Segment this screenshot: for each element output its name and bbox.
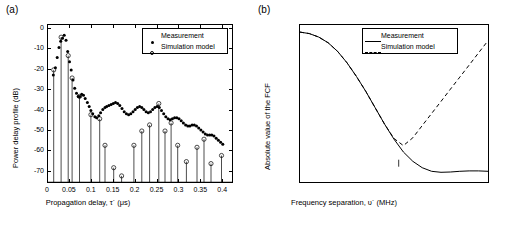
measurement-marker: [56, 56, 59, 59]
panel-b-label: (b): [258, 4, 270, 15]
measurement-marker: [142, 108, 145, 111]
panel-b-x-axis-title: Frequency separation, υ´ (MHz): [291, 198, 397, 207]
panel-a-legend-label-0: Measurement: [161, 30, 204, 41]
y-tick: [47, 69, 51, 70]
y-tick-label: -60: [21, 146, 44, 154]
measurement-marker: [99, 111, 102, 114]
x-tick: [157, 179, 158, 183]
y-tick-right: [229, 150, 233, 151]
measurement-marker: [88, 105, 91, 108]
measurement-marker: [70, 68, 73, 71]
x-tick-label: 0: [45, 186, 49, 194]
y-tick-right: [229, 89, 233, 90]
measurement-marker: [72, 79, 75, 82]
measurement-marker: [202, 131, 205, 134]
measurement-marker: [219, 141, 222, 144]
panel-b-y-axis-title: Absolute value of the FCF: [263, 83, 272, 170]
measurement-marker: [160, 109, 163, 112]
x-tick-label: 0.15: [106, 186, 120, 194]
x-tick-label: 0.3: [174, 186, 184, 194]
x-tick-label: 0.1: [86, 186, 96, 194]
x-tick: [200, 179, 201, 183]
y-tick-right: [229, 130, 233, 131]
x-tick-top: [91, 24, 92, 28]
measurement-marker: [54, 66, 57, 69]
y-tick-right: [229, 69, 233, 70]
measurement-marker: [158, 106, 161, 109]
y-tick-label: -10: [21, 44, 44, 52]
panel-b-legend-label-1: Simulation model: [381, 41, 435, 52]
panel-a-label: (a): [6, 4, 18, 15]
x-tick: [91, 179, 92, 183]
measurement-marker: [91, 112, 94, 115]
panel-a-y-axis-title: Power delay profile (dB): [11, 88, 20, 168]
measurement-marker: [149, 110, 152, 113]
y-tick-right: [229, 171, 233, 172]
panel-a-x-axis-title: Propagation delay, τ´ (μs): [46, 198, 131, 207]
measurement-marker: [162, 112, 165, 115]
measurement-marker: [195, 124, 198, 127]
y-tick-right: [229, 110, 233, 111]
measurement-marker: [221, 143, 224, 146]
panel-b-legend: Measurement Simulation model: [362, 28, 458, 54]
panel-a-legend: Measurement Simulation model: [142, 28, 228, 54]
panel-b-legend-item-measurement: Measurement: [363, 30, 457, 41]
y-tick-right: [229, 28, 233, 29]
measurement-marker: [66, 50, 69, 53]
x-tick-top: [113, 24, 114, 28]
y-tick: [47, 89, 51, 90]
measurement-marker: [132, 110, 135, 113]
panel-a-legend-item-measurement: Measurement: [143, 30, 227, 41]
measurement-marker: [118, 104, 121, 107]
x-tick-label: 0.2: [130, 186, 140, 194]
x-tick-top: [135, 24, 136, 28]
measurement-marker: [63, 34, 66, 37]
measurement-marker: [58, 46, 61, 49]
y-tick: [47, 171, 51, 172]
measurement-marker: [89, 109, 92, 112]
x-tick-label: 0.25: [150, 186, 164, 194]
y-tick-label: 0: [21, 24, 44, 32]
figure-canvas: (a) 00.050.10.150.20.250.30.350.4-70-60-…: [0, 0, 505, 231]
x-tick: [47, 179, 48, 183]
panel-a-legend-item-simulation: Simulation model: [143, 41, 227, 52]
x-tick-label: 0.4: [217, 186, 227, 194]
y-tick: [47, 130, 51, 131]
measurement-marker: [97, 114, 100, 117]
y-tick-label: -30: [21, 85, 44, 93]
measurement-marker: [73, 87, 76, 90]
x-tick: [135, 179, 136, 183]
x-tick: [178, 179, 179, 183]
panel-b: (b) 051015202530354000.20.40.60.81 υ´max…: [252, 0, 505, 231]
measurement-marker: [61, 37, 64, 40]
measurement-marker: [59, 40, 62, 43]
y-tick-label: -20: [21, 65, 44, 73]
y-tick-label: -70: [21, 167, 44, 175]
y-tick: [47, 150, 51, 151]
measurement-marker: [65, 39, 68, 42]
panel-a: (a) 00.050.10.150.20.250.30.350.4-70-60-…: [0, 0, 252, 231]
measurement-marker: [82, 94, 85, 97]
measurement-marker: [68, 60, 71, 63]
y-tick: [47, 48, 51, 49]
measurement-marker: [52, 74, 55, 77]
y-tick: [47, 28, 51, 29]
y-tick-label: -50: [21, 126, 44, 134]
y-tick: [47, 110, 51, 111]
measurement-marker: [95, 116, 98, 119]
x-tick: [113, 179, 114, 183]
x-tick-top: [69, 24, 70, 28]
x-tick-label: 0.35: [194, 186, 208, 194]
y-tick-label: -40: [21, 106, 44, 114]
measurement-marker: [75, 92, 78, 95]
x-tick: [222, 179, 223, 183]
measurement-marker: [213, 135, 216, 138]
panel-b-legend-label-0: Measurement: [381, 30, 424, 41]
y-tick-right: [229, 48, 233, 49]
measurement-marker: [180, 119, 183, 122]
x-tick-label: 0.05: [62, 186, 76, 194]
panel-b-legend-item-simulation: Simulation model: [363, 41, 457, 52]
measurement-marker: [86, 101, 89, 104]
measurement-marker: [121, 107, 124, 110]
panel-a-legend-label-1: Simulation model: [161, 41, 215, 52]
